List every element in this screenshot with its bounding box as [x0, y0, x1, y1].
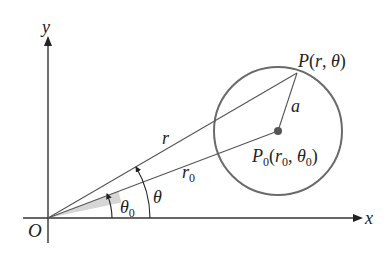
segment-r0-label: r0: [182, 162, 195, 185]
arc-theta: [136, 167, 150, 218]
center-point-p0: [274, 127, 282, 135]
x-axis-label: x: [364, 208, 373, 228]
y-axis-label: y: [40, 17, 50, 37]
point-p0-label: P0(r0, θ0): [251, 146, 318, 169]
angle-theta0-label: θ0: [120, 197, 135, 220]
origin-label: O: [28, 220, 42, 241]
point-p-label: P(r, θ): [297, 51, 346, 72]
segment-a-label: a: [291, 96, 300, 116]
segment-r-label: r: [162, 128, 170, 148]
angle-theta-label: θ: [153, 187, 162, 207]
polar-circle-diagram: y x O P(r, θ) P0(r0, θ0) a r r0 θ θ0: [0, 0, 388, 259]
